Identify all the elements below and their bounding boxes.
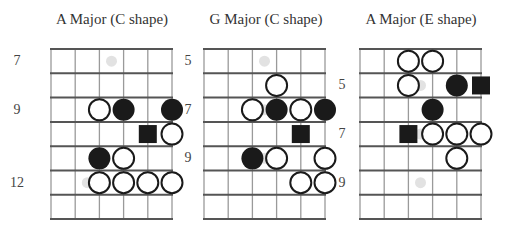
fret-number-label: 7 (185, 102, 192, 118)
open-note-marker (398, 51, 419, 72)
root-note-marker (139, 125, 157, 143)
ghost-note-marker (415, 177, 426, 188)
open-note-marker (446, 148, 467, 169)
open-note-marker (266, 75, 287, 96)
root-note-marker (399, 125, 417, 143)
fret-number-label: 9 (185, 150, 192, 166)
open-note-marker (113, 172, 134, 193)
open-note-marker (290, 172, 311, 193)
filled-note-marker (446, 74, 468, 96)
open-note-marker (422, 51, 443, 72)
open-note-marker (242, 99, 263, 120)
fret-number-label: 5 (339, 77, 346, 93)
filled-note-marker (422, 99, 444, 121)
filled-note-marker (161, 99, 183, 121)
open-note-marker (315, 148, 336, 169)
root-note-marker (472, 76, 490, 94)
filled-note-marker (241, 147, 263, 169)
fret-number-label: 12 (10, 175, 24, 191)
filled-note-marker (266, 99, 288, 121)
fret-number-label: 7 (14, 53, 21, 69)
filled-note-marker (88, 147, 110, 169)
fret-number-label: 7 (339, 126, 346, 142)
open-note-marker (162, 172, 183, 193)
open-note-marker (290, 99, 311, 120)
fret-number-label: 5 (185, 53, 192, 69)
open-note-marker (315, 172, 336, 193)
open-note-marker (137, 172, 158, 193)
ghost-note-marker (259, 56, 270, 67)
open-note-marker (422, 124, 443, 145)
open-note-marker (89, 172, 110, 193)
open-note-marker (398, 75, 419, 96)
ghost-note-marker (106, 56, 117, 67)
open-note-marker (471, 124, 492, 145)
open-note-marker (446, 124, 467, 145)
fretboard-svg (0, 0, 510, 236)
open-note-marker (113, 148, 134, 169)
fret-number-label: 9 (14, 102, 21, 118)
chord-diagrams-stage: A Major (C shape) G Major (C shape) A Ma… (0, 0, 510, 236)
fret-number-label: 9 (339, 175, 346, 191)
open-note-marker (266, 148, 287, 169)
open-note-marker (162, 124, 183, 145)
filled-note-marker (113, 99, 135, 121)
open-note-marker (89, 99, 110, 120)
root-note-marker (292, 125, 310, 143)
filled-note-marker (314, 99, 336, 121)
